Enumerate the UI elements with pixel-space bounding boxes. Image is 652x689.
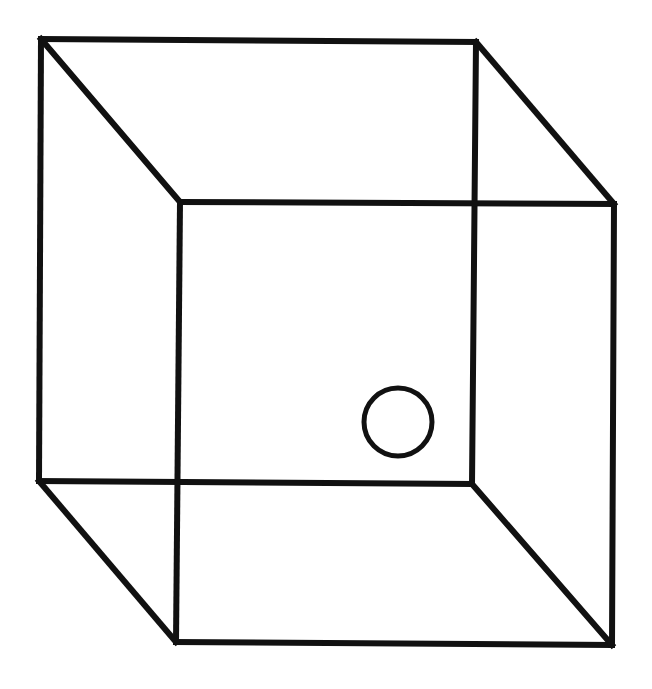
- cube-svg: [0, 0, 652, 689]
- front-bottom-edge: [176, 642, 612, 645]
- circle-marker: [364, 388, 432, 456]
- back-bottom-edge: [39, 481, 472, 484]
- back-top-edge: [41, 39, 476, 42]
- top-right-depth-edge: [476, 42, 614, 204]
- front-top-edge: [180, 202, 614, 204]
- bottom-left-depth-edge: [39, 481, 176, 642]
- cube-diagram: [0, 0, 652, 689]
- cube-edges: [39, 39, 614, 645]
- back-left-edge: [39, 39, 41, 481]
- front-left-edge: [176, 202, 180, 642]
- bottom-right-depth-edge: [472, 484, 612, 645]
- back-right-edge: [472, 42, 476, 484]
- front-right-edge: [612, 204, 614, 645]
- top-left-depth-edge: [41, 39, 180, 202]
